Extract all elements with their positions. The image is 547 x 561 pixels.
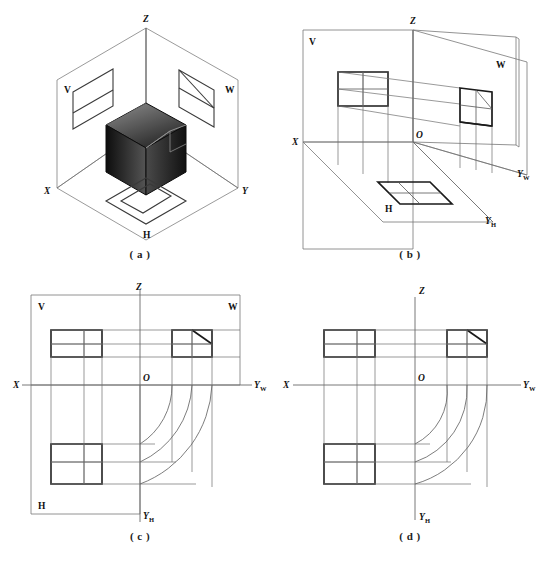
label-yh-subscript-d: H (425, 517, 430, 524)
panel-a: Z X Y V W H (0, 0, 280, 250)
label-yh-subscript-c: H (149, 516, 154, 523)
label-z-axis-b: Z (409, 16, 416, 26)
axes-c (22, 290, 252, 522)
label-yh-subscript-b: H (491, 221, 496, 228)
label-origin-b: O (416, 130, 423, 140)
panel-d-drawing: Z X O Y W Y H (267, 282, 547, 532)
caption-c: ( c ) (100, 530, 180, 542)
caption-a: ( a ) (100, 248, 180, 260)
side-view-on-w-plane (179, 70, 214, 127)
panel-b: Z X O V W H Y W Y H (280, 0, 547, 250)
top-view-d (324, 444, 375, 484)
projection-rays-b (338, 72, 460, 126)
label-z-axis-c: Z (135, 282, 142, 292)
v-plane-b (303, 30, 413, 249)
caption-b: ( b ) (370, 248, 450, 260)
label-w-plane-b: W (496, 60, 506, 70)
label-origin-d: O (418, 373, 425, 383)
projection-lines-c (51, 330, 240, 487)
top-view-c (51, 444, 102, 484)
label-z-axis-d: Z (418, 286, 425, 296)
label-w-plane-c: W (228, 302, 238, 312)
label-w-plane-a: W (225, 85, 235, 95)
panel-c: Z X O V W H Y W Y H (0, 282, 280, 532)
caption-d: ( d ) (370, 530, 450, 542)
label-x-axis-b: X (291, 137, 299, 147)
projection-lines-d (324, 330, 487, 487)
label-x-axis-a: X (43, 186, 51, 196)
label-y-axis-a: Y (242, 186, 249, 196)
label-h-plane-c: H (38, 501, 46, 511)
yw-axis-b (413, 142, 527, 175)
front-view-c (51, 330, 102, 357)
panel-a-drawing: Z X Y V W H (0, 0, 280, 250)
panel-c-drawing: Z X O V W H Y W Y H (0, 282, 280, 532)
plane-borders-c (31, 295, 240, 514)
label-yw-subscript-d: W (529, 385, 536, 392)
w-plane-b (413, 30, 527, 175)
label-yw-subscript-c: W (260, 385, 267, 392)
label-yw-subscript-b: W (523, 174, 530, 181)
label-z-axis-a: Z (142, 14, 149, 24)
label-v-plane-b: V (309, 37, 316, 47)
solid-object (106, 103, 186, 195)
front-view-on-v-plane (73, 69, 113, 129)
label-v-plane-c: V (38, 302, 45, 312)
label-v-plane-a: V (64, 85, 71, 95)
panel-d: Z X O Y W Y H (267, 282, 547, 532)
depth-transfer-arcs-d (415, 385, 487, 484)
label-x-axis-c: X (12, 380, 20, 390)
label-h-plane-b: H (385, 204, 393, 214)
label-origin-c: O (143, 373, 150, 383)
panel-b-drawing: Z X O V W H Y W Y H (280, 0, 547, 250)
label-x-axis-d: X (282, 380, 290, 390)
depth-transfer-arcs-c (140, 385, 212, 484)
label-h-plane-a: H (143, 230, 151, 240)
front-view-b (338, 72, 388, 183)
top-view-b (378, 182, 452, 204)
front-view-d (324, 330, 375, 357)
